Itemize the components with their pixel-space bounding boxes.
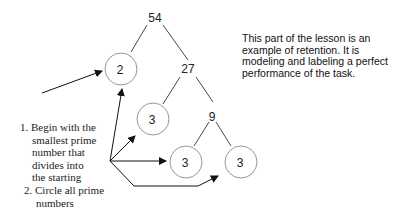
step-1-line: 1. Begin with the [20, 121, 115, 134]
step-1-line: divides into [20, 159, 115, 172]
node-3-c: 3 [237, 156, 244, 170]
node-27: 27 [181, 62, 195, 76]
step-2-line: 2. Circle all prime [24, 184, 124, 197]
edge-9-3-right [216, 122, 231, 146]
edge-54-2 [131, 25, 147, 52]
prime-factor-tree-diagram: 54 2 27 3 9 3 3 This part of the lesson … [0, 0, 404, 214]
node-2: 2 [117, 63, 124, 77]
edge-54-27 [163, 25, 188, 60]
edge-9-3-left [194, 122, 209, 146]
edge-27-9 [196, 77, 213, 102]
caption-line: modeling and labeling a perfect [242, 56, 404, 68]
tree-edges [131, 25, 231, 146]
node-9: 9 [209, 110, 216, 124]
node-3-a: 3 [149, 113, 156, 127]
lesson-caption: This part of the lesson is an example of… [242, 33, 404, 79]
step-2-instruction: 2. Circle all prime numbers [24, 184, 124, 209]
step-1-line: number that [20, 146, 115, 159]
step-1-instruction: 1. Begin with the smallest prime number … [20, 121, 115, 192]
caption-line: This part of the lesson is an [242, 33, 404, 45]
edge-27-3 [163, 77, 180, 104]
step-1-line: smallest prime [20, 134, 115, 147]
node-54: 54 [148, 11, 162, 25]
arrow-to-2 [42, 71, 102, 93]
node-3-b: 3 [182, 156, 189, 170]
step-2-line: numbers [24, 197, 124, 210]
caption-line: performance of the task. [242, 68, 404, 80]
